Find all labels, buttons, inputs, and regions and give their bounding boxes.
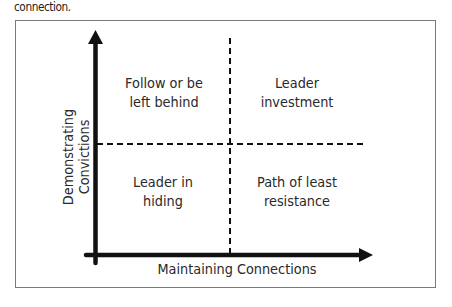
quadrant-top-right: Leader investment (237, 74, 357, 112)
quadrant-line: hiding (103, 192, 223, 211)
quadrant-bottom-right: Path of least resistance (237, 173, 357, 211)
quadrant-line: left behind (104, 93, 224, 112)
quadrant-line: Follow or be (104, 74, 224, 93)
x-axis-arrow-icon (359, 248, 373, 262)
quadrant-top-left: Follow or be left behind (104, 74, 224, 112)
quadrant-line: investment (237, 93, 357, 112)
quadrant-line: Path of least (237, 173, 357, 192)
y-axis-label: Demonstrating Convictions (60, 76, 92, 238)
y-axis-arrow-icon (88, 30, 103, 44)
x-axis-label: Maintaining Connections (148, 261, 326, 277)
quadrant-line: Leader (237, 74, 357, 93)
quadrant-bottom-left: Leader in hiding (103, 173, 223, 211)
quadrant-line: resistance (237, 192, 357, 211)
quadrant-line: Leader in (103, 173, 223, 192)
